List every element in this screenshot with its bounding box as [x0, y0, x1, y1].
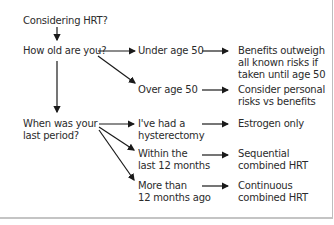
- option-over-50: Over age 50: [138, 84, 198, 96]
- question-age: How old are you?: [23, 45, 106, 57]
- result-more-than-12-months: Continuous combined HRT: [238, 180, 308, 204]
- arrow-period-more12: [99, 130, 134, 180]
- option-within-12-months: Within the last 12 months: [138, 148, 210, 172]
- title-node: Considering HRT?: [23, 15, 108, 27]
- result-over-50: Consider personal risks vs benefits: [238, 84, 325, 108]
- arrow-age-over50: [98, 56, 135, 83]
- option-more-than-12-months: More than 12 months ago: [138, 180, 211, 204]
- result-under-50: Benefits outweigh all known risks if tak…: [238, 45, 325, 81]
- option-under-50: Under age 50: [138, 45, 204, 57]
- result-hysterectomy: Estrogen only: [238, 118, 304, 130]
- question-period: When was your last period?: [23, 118, 97, 142]
- result-within-12-months: Sequential combined HRT: [238, 148, 308, 172]
- option-hysterectomy: I've had a hysterectomy: [138, 118, 204, 142]
